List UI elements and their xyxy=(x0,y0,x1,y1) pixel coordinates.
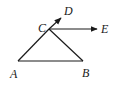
segment-bc xyxy=(49,29,83,61)
label-c: C xyxy=(38,21,47,35)
label-a: A xyxy=(9,67,18,81)
label-d: D xyxy=(63,4,73,18)
label-b: B xyxy=(82,66,90,80)
label-e: E xyxy=(100,22,109,36)
geometry-diagram: A B C D E xyxy=(0,0,116,86)
ray-cd xyxy=(49,18,61,29)
